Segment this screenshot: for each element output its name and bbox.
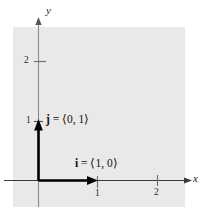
i-vector-arrow bbox=[39, 176, 99, 185]
y-axis-ticks bbox=[34, 62, 46, 122]
y-tick-label-2: 2 bbox=[24, 56, 29, 66]
i-components: = ⟨1, 0⟩ bbox=[78, 157, 118, 169]
y-tick-label-1: 1 bbox=[26, 116, 31, 126]
j-components: = ⟨0, 1⟩ bbox=[50, 113, 90, 125]
y-axis-label: y bbox=[46, 5, 51, 16]
x-tick-label-1: 1 bbox=[95, 189, 100, 199]
x-axis-ticks bbox=[98, 175, 158, 188]
j-vector-label: j = ⟨0, 1⟩ bbox=[46, 114, 89, 126]
vector-diagram-figure: y x 1 2 1 2 j = ⟨0, 1⟩ i = ⟨1, 0⟩ bbox=[0, 0, 207, 221]
axes-and-vectors bbox=[0, 0, 207, 221]
j-vector-arrow bbox=[34, 119, 43, 181]
x-tick-label-2: 2 bbox=[154, 188, 159, 198]
i-vector-label: i = ⟨1, 0⟩ bbox=[75, 158, 118, 170]
x-axis-label: x bbox=[193, 173, 198, 184]
